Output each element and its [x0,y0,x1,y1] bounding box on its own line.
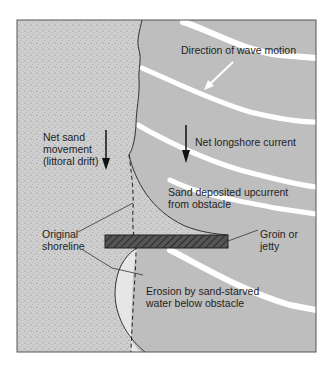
sand-deposited-label: Sand deposited upcurrent from obstacle [168,186,288,210]
erosion-label: Erosion by sand-starved water below obst… [146,285,259,309]
wave-direction-label: Direction of wave motion [181,44,296,56]
groin-label: Groin or jetty [260,228,298,252]
original-shoreline-label: Original shoreline [42,228,85,252]
sand-movement-label: Net sand movement (littoral drift) [43,131,98,167]
groin [105,235,228,248]
diagram-root: Direction of wave motion Net longshore c… [0,0,330,368]
longshore-current-label: Net longshore current [195,136,296,148]
